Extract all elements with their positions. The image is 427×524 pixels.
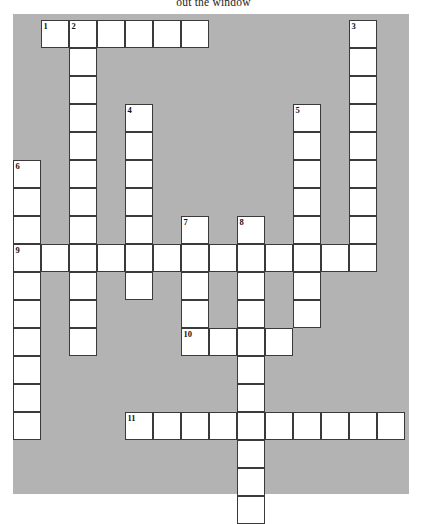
puzzle-title: out the window xyxy=(0,0,427,9)
crossword-cell[interactable]: 2 xyxy=(69,20,97,48)
crossword-cell[interactable] xyxy=(349,132,377,160)
crossword-cell[interactable] xyxy=(293,300,321,328)
crossword-cell[interactable] xyxy=(237,272,265,300)
crossword-cell[interactable] xyxy=(293,272,321,300)
cell-number: 5 xyxy=(296,105,300,115)
crossword-cell[interactable] xyxy=(13,272,41,300)
crossword-cell[interactable] xyxy=(69,328,97,356)
crossword-cell[interactable] xyxy=(153,20,181,48)
crossword-cell[interactable] xyxy=(125,20,153,48)
crossword-cell[interactable] xyxy=(237,356,265,384)
crossword-cell[interactable] xyxy=(13,328,41,356)
crossword-cell[interactable] xyxy=(209,328,237,356)
crossword-cell[interactable] xyxy=(181,20,209,48)
crossword-cell[interactable] xyxy=(97,20,125,48)
crossword-cell[interactable] xyxy=(265,412,293,440)
crossword-cell[interactable]: 7 xyxy=(181,216,209,244)
crossword-cell[interactable]: 1 xyxy=(41,20,69,48)
crossword-cell[interactable] xyxy=(349,104,377,132)
cell-number: 2 xyxy=(72,21,76,31)
crossword-cell[interactable] xyxy=(153,412,181,440)
crossword-cell[interactable] xyxy=(13,356,41,384)
crossword-cell[interactable] xyxy=(69,104,97,132)
crossword-cell[interactable] xyxy=(293,160,321,188)
crossword-cell[interactable] xyxy=(265,328,293,356)
crossword-cell[interactable] xyxy=(97,244,125,272)
cell-number: 7 xyxy=(184,217,188,227)
cell-number: 4 xyxy=(128,105,132,115)
crossword-cell[interactable] xyxy=(13,300,41,328)
cell-number: 11 xyxy=(128,413,136,423)
crossword-cell[interactable] xyxy=(69,76,97,104)
cell-number: 1 xyxy=(44,21,48,31)
crossword-cell[interactable] xyxy=(153,244,181,272)
crossword-cell[interactable] xyxy=(181,300,209,328)
crossword-cell[interactable] xyxy=(181,272,209,300)
crossword-cell[interactable] xyxy=(237,328,265,356)
crossword-cell[interactable] xyxy=(293,412,321,440)
crossword-cell[interactable] xyxy=(237,440,265,468)
crossword-cell[interactable] xyxy=(13,384,41,412)
crossword-cell[interactable] xyxy=(293,216,321,244)
crossword-cell[interactable] xyxy=(125,216,153,244)
crossword-cell[interactable] xyxy=(237,244,265,272)
crossword-cell[interactable] xyxy=(265,244,293,272)
crossword-cell[interactable] xyxy=(69,272,97,300)
crossword-cell[interactable] xyxy=(321,244,349,272)
cell-number: 9 xyxy=(16,245,20,255)
crossword-cell[interactable] xyxy=(349,160,377,188)
crossword-cell[interactable] xyxy=(349,48,377,76)
crossword-cell[interactable] xyxy=(209,412,237,440)
crossword-cell[interactable]: 6 xyxy=(13,160,41,188)
crossword-cell[interactable] xyxy=(13,412,41,440)
crossword-cell[interactable]: 8 xyxy=(237,216,265,244)
crossword-cell[interactable]: 5 xyxy=(293,104,321,132)
crossword-cell[interactable] xyxy=(13,216,41,244)
crossword-cell[interactable] xyxy=(13,188,41,216)
crossword-cell[interactable] xyxy=(125,188,153,216)
crossword-cell[interactable] xyxy=(125,132,153,160)
crossword-cell[interactable] xyxy=(321,412,349,440)
crossword-cell[interactable] xyxy=(125,160,153,188)
crossword-cell[interactable] xyxy=(69,300,97,328)
crossword-cell[interactable] xyxy=(237,300,265,328)
cell-number: 6 xyxy=(16,161,20,171)
crossword-cell[interactable] xyxy=(209,244,237,272)
crossword-cell[interactable] xyxy=(69,216,97,244)
crossword-cell[interactable] xyxy=(349,216,377,244)
crossword-cell[interactable] xyxy=(69,244,97,272)
crossword-cell[interactable] xyxy=(41,244,69,272)
crossword-cell[interactable] xyxy=(349,244,377,272)
crossword-cell[interactable] xyxy=(69,132,97,160)
crossword-cell[interactable] xyxy=(349,412,377,440)
crossword-cell[interactable]: 4 xyxy=(125,104,153,132)
crossword-cell[interactable] xyxy=(377,412,405,440)
crossword-cell[interactable] xyxy=(181,244,209,272)
cell-number: 3 xyxy=(352,21,356,31)
crossword-cell[interactable] xyxy=(293,132,321,160)
crossword-cell[interactable] xyxy=(181,412,209,440)
crossword-cell[interactable] xyxy=(349,76,377,104)
cell-number: 8 xyxy=(240,217,244,227)
crossword-cell[interactable] xyxy=(293,188,321,216)
crossword-cell[interactable]: 11 xyxy=(125,412,153,440)
crossword-cell[interactable] xyxy=(69,48,97,76)
crossword-board: 1234567891011 xyxy=(13,14,409,494)
crossword-cell[interactable] xyxy=(69,160,97,188)
crossword-cell[interactable] xyxy=(125,272,153,300)
crossword-cell[interactable] xyxy=(293,244,321,272)
crossword-cell-layer: 1234567891011 xyxy=(13,14,409,494)
crossword-cell[interactable] xyxy=(69,188,97,216)
crossword-cell[interactable] xyxy=(349,188,377,216)
crossword-cell[interactable]: 9 xyxy=(13,244,41,272)
crossword-cell[interactable]: 10 xyxy=(181,328,209,356)
crossword-cell[interactable] xyxy=(237,496,265,524)
crossword-cell[interactable] xyxy=(125,244,153,272)
crossword-cell[interactable] xyxy=(237,412,265,440)
cell-number: 10 xyxy=(184,329,193,339)
crossword-cell[interactable] xyxy=(237,468,265,496)
crossword-cell[interactable]: 3 xyxy=(349,20,377,48)
crossword-cell[interactable] xyxy=(237,384,265,412)
